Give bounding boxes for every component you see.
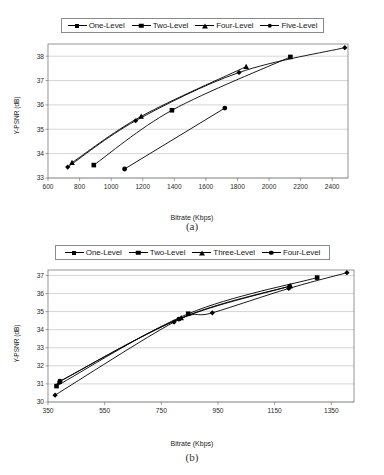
- y-tick-label: 34: [37, 150, 45, 157]
- x-tick-label: 550: [99, 407, 110, 414]
- x-tick-label: 750: [156, 407, 167, 414]
- y-tick-label: 37: [37, 77, 45, 84]
- circle-data-point: [287, 284, 292, 289]
- y-tick-label: 38: [37, 53, 45, 60]
- legend-label: Four-Level: [283, 248, 320, 257]
- x-tick-label: 2200: [293, 183, 308, 190]
- square-data-point: [54, 384, 59, 389]
- chart-a-svg: 3334353637386008001000120014001600180020…: [0, 38, 384, 198]
- x-tick-label: 1200: [135, 183, 150, 190]
- triangle-marker-icon: [195, 21, 214, 30]
- plot-area-chart-a: 3334353637386008001000120014001600180020…: [0, 38, 384, 198]
- square-data-point: [91, 163, 96, 168]
- plot-area-chart-b: 303132333435363735055075095011501350: [0, 264, 384, 422]
- legend-entry-one-level-a: One-Level: [68, 21, 125, 30]
- x-tick-label: 2000: [262, 183, 277, 190]
- circle-data-point: [222, 106, 227, 111]
- legend-label: One-Level: [86, 248, 122, 257]
- series-line: [55, 273, 347, 395]
- y-tick-label: 35: [37, 126, 45, 133]
- y-tick-label: 36: [37, 290, 45, 297]
- x-tick-label: 600: [42, 183, 53, 190]
- y-tick-label: 30: [37, 398, 45, 405]
- legend-entry-two-level-a: Two-Level: [132, 21, 189, 30]
- x-tick-label: 800: [74, 183, 85, 190]
- legend-entry-five-level-a: Five-Level: [260, 21, 317, 30]
- legend-label: Five-Level: [281, 21, 317, 30]
- circle-marker-icon: [260, 21, 279, 30]
- legend-label: Three-Level: [213, 248, 255, 257]
- square-data-point: [315, 275, 320, 280]
- legend-label: One-Level: [89, 21, 125, 30]
- y-tick-label: 36: [37, 101, 45, 108]
- triangle-data-point: [138, 113, 144, 118]
- x-tick-label: 1800: [230, 183, 245, 190]
- series-line: [59, 286, 290, 382]
- legend-label: Four-Level: [216, 21, 253, 30]
- y-axis-title-a: Y-PSNR (dB): [13, 91, 20, 141]
- legend-chart-b: One-Level Two-Level Three-Level Four-Lev…: [55, 245, 330, 260]
- series-two-level: [91, 55, 292, 168]
- x-axis-title-b: Bitrate (Kbps): [0, 440, 384, 447]
- x-tick-label: 1150: [268, 407, 283, 414]
- y-tick-label: 35: [37, 308, 45, 315]
- square-data-point: [170, 108, 175, 113]
- y-tick-label: 33: [37, 344, 45, 351]
- series-five-level: [122, 106, 227, 172]
- diamond-data-point: [342, 45, 347, 50]
- figure-caption-b: (b): [0, 451, 384, 463]
- diamond-marker-icon: [65, 248, 84, 257]
- circle-marker-icon: [262, 248, 281, 257]
- diamond-marker-icon: [68, 21, 87, 30]
- series-line: [94, 57, 291, 165]
- triangle-data-point: [243, 64, 249, 69]
- y-tick-label: 31: [37, 380, 45, 387]
- series-two-level: [54, 275, 319, 388]
- legend-entry-three-level-b: Three-Level: [192, 248, 255, 257]
- x-tick-label: 950: [212, 407, 223, 414]
- legend-entry-four-level-a: Four-Level: [195, 21, 253, 30]
- chart-b-svg: 303132333435363735055075095011501350: [0, 264, 384, 422]
- series-one-level: [65, 45, 347, 170]
- diamond-data-point: [344, 270, 349, 275]
- legend-chart-a: One-Level Two-Level Four-Level Five-Leve…: [61, 18, 324, 33]
- x-tick-label: 1600: [199, 183, 214, 190]
- legend-entry-four-level-b: Four-Level: [262, 248, 320, 257]
- square-marker-icon: [129, 248, 148, 257]
- y-tick-label: 37: [37, 272, 45, 279]
- square-marker-icon: [132, 21, 151, 30]
- circle-data-point: [58, 379, 63, 384]
- figure-a: One-Level Two-Level Four-Level Five-Leve…: [0, 0, 384, 238]
- legend-label: Two-Level: [153, 21, 189, 30]
- legend-entry-two-level-b: Two-Level: [129, 248, 186, 257]
- x-tick-label: 1000: [104, 183, 119, 190]
- triangle-marker-icon: [192, 248, 211, 257]
- series-line: [68, 48, 345, 167]
- x-tick-label: 1350: [324, 407, 339, 414]
- y-tick-label: 33: [37, 174, 45, 181]
- diamond-data-point: [52, 393, 57, 398]
- x-tick-label: 350: [42, 407, 53, 414]
- figure-caption-a: (a): [0, 220, 384, 232]
- series-line: [60, 286, 290, 381]
- series-one-level: [52, 270, 349, 398]
- circle-data-point: [177, 317, 182, 322]
- square-data-point: [288, 55, 293, 60]
- x-tick-label: 1400: [167, 183, 182, 190]
- legend-entry-one-level-b: One-Level: [65, 248, 122, 257]
- y-tick-label: 32: [37, 362, 45, 369]
- diamond-data-point: [210, 310, 215, 315]
- y-tick-label: 34: [37, 326, 45, 333]
- x-tick-label: 2400: [325, 183, 340, 190]
- legend-label: Two-Level: [150, 248, 186, 257]
- circle-data-point: [122, 167, 127, 172]
